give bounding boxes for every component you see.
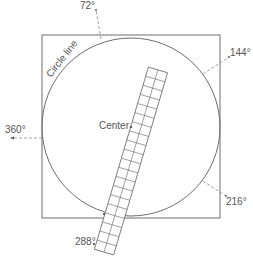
label-72: 72° xyxy=(80,0,95,11)
center-dot xyxy=(130,126,132,128)
circle-ruler-diagram: 72° 144° 216° 288° 360° Center Circle li… xyxy=(0,0,253,263)
arrow-360 xyxy=(10,137,14,140)
label-360: 360° xyxy=(5,124,26,135)
measuring-strip xyxy=(94,67,167,255)
label-216: 216° xyxy=(226,196,247,207)
diagram-canvas: 72° 144° 216° 288° 360° Center Circle li… xyxy=(0,0,253,263)
pointer-144 xyxy=(203,57,229,74)
label-144: 144° xyxy=(230,47,251,58)
dot-circle-crossing xyxy=(103,213,105,215)
label-center: Center xyxy=(99,120,130,131)
label-288: 288° xyxy=(75,236,96,247)
dot-72 xyxy=(95,9,97,11)
pointer-216 xyxy=(203,181,226,196)
